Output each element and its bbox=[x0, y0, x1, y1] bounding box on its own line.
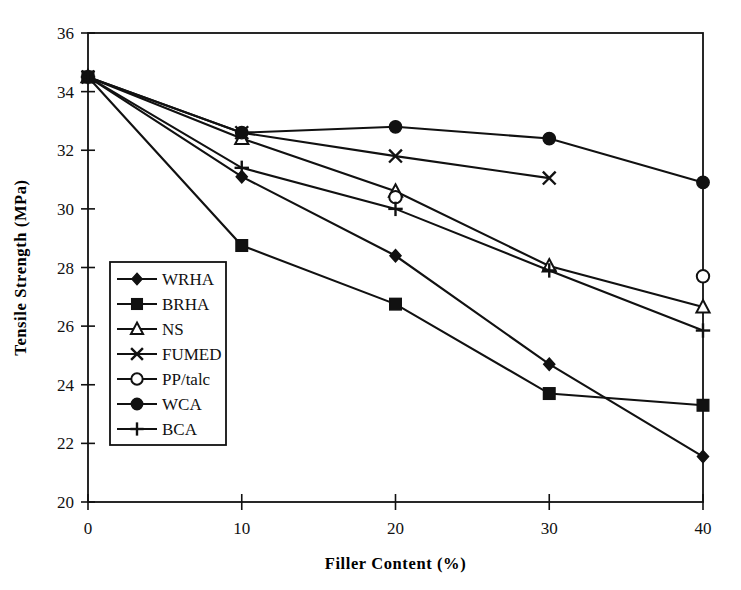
data-point-filled-circle bbox=[697, 176, 709, 188]
data-point-filled-circle bbox=[131, 398, 142, 409]
x-tick-label: 0 bbox=[84, 519, 93, 538]
x-tick-label: 10 bbox=[233, 519, 250, 538]
data-point-open-circle bbox=[389, 191, 401, 203]
chart-canvas: 202224262830323436 010203040 WRHABRHANSF… bbox=[0, 0, 741, 590]
legend-label: NS bbox=[162, 320, 184, 339]
data-point-filled-diamond bbox=[390, 250, 401, 262]
data-point-filled-square bbox=[543, 388, 555, 400]
y-tick-label: 28 bbox=[57, 259, 74, 278]
y-tick-label: 30 bbox=[57, 200, 74, 219]
data-point-filled-circle bbox=[543, 132, 555, 144]
y-tick-label: 26 bbox=[57, 317, 74, 336]
data-point-filled-square bbox=[132, 299, 143, 310]
x-axis-title: Filler Content (%) bbox=[325, 554, 467, 573]
data-point-filled-square bbox=[697, 399, 709, 411]
data-point-plus bbox=[388, 202, 402, 216]
data-point-plus bbox=[696, 323, 710, 337]
data-point-filled-circle bbox=[236, 126, 248, 138]
data-point-open-circle bbox=[697, 270, 709, 282]
y-axis-title: Tensile Strength (MPa) bbox=[11, 179, 30, 355]
chart-legend: WRHABRHANSFUMEDPP/talcWCABCA bbox=[110, 262, 226, 445]
y-tick-label: 20 bbox=[57, 493, 74, 512]
data-point-filled-square bbox=[236, 240, 248, 252]
y-tick-label: 34 bbox=[57, 83, 75, 102]
y-tick-label: 22 bbox=[57, 434, 74, 453]
legend-label: BRHA bbox=[162, 295, 210, 314]
x-tick-label: 30 bbox=[541, 519, 558, 538]
y-axis-ticks: 202224262830323436 bbox=[57, 24, 95, 512]
x-axis-ticks: 010203040 bbox=[84, 494, 712, 538]
y-tick-label: 36 bbox=[57, 24, 74, 43]
legend-label: WRHA bbox=[162, 270, 215, 289]
y-tick-label: 24 bbox=[57, 376, 75, 395]
y-tick-label: 32 bbox=[57, 141, 74, 160]
series-fumed bbox=[82, 71, 556, 185]
data-point-plus bbox=[542, 263, 556, 277]
data-point-open-circle bbox=[131, 373, 142, 384]
legend-label: BCA bbox=[162, 420, 198, 439]
legend-label: WCA bbox=[162, 395, 202, 414]
legend-label: PP/talc bbox=[162, 370, 211, 389]
tensile-strength-chart: 202224262830323436 010203040 WRHABRHANSF… bbox=[0, 0, 741, 590]
data-point-filled-circle bbox=[389, 121, 401, 133]
data-point-filled-square bbox=[390, 298, 402, 310]
x-tick-label: 20 bbox=[387, 519, 404, 538]
data-point-filled-diamond bbox=[697, 450, 708, 462]
legend-label: FUMED bbox=[162, 345, 222, 364]
data-point-filled-diamond bbox=[544, 358, 555, 370]
x-tick-label: 40 bbox=[695, 519, 712, 538]
